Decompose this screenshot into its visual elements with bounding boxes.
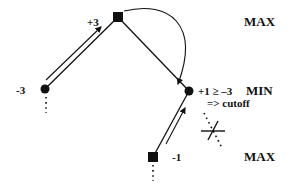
edge-right-leaf [153,91,189,157]
value-right: +1 ≥ –3 [198,85,233,97]
node-right-min [185,87,194,96]
cutoff-label: => cutoff [207,97,250,109]
arrow-root-to-right [124,8,185,84]
node-left-min [41,85,50,94]
arrow-leaf-to-right [166,108,185,144]
game-tree-diagram: +3 -3 +1 ≥ –3 -1 => cutoff MAX MIN MAX [0,0,296,193]
node-leaf-max [148,152,158,162]
level-label-middle: MIN [246,83,273,98]
value-root: +3 [87,16,99,28]
edge-root-right [118,17,189,91]
value-leaf: -1 [172,151,181,163]
level-label-bottom: MAX [244,149,276,164]
node-root-max [113,12,123,22]
level-label-top: MAX [244,14,276,29]
arrow-left-to-root [46,27,101,80]
value-left: -3 [16,84,26,96]
edge-root-left [45,17,118,89]
